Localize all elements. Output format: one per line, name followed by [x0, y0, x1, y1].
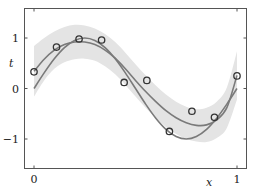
plot-area	[31, 25, 240, 143]
x-tick-label: 1	[234, 173, 241, 186]
y-axis-label: t	[9, 57, 14, 70]
axis-ticks: 0110−1	[3, 9, 247, 187]
y-tick-label: 1	[12, 32, 19, 45]
y-tick-label: −1	[3, 133, 19, 146]
x-axis-label: x	[206, 176, 213, 189]
x-tick-label: 0	[31, 173, 38, 186]
chart: 0110−1 t x	[0, 0, 253, 191]
y-tick-label: 0	[12, 83, 19, 96]
